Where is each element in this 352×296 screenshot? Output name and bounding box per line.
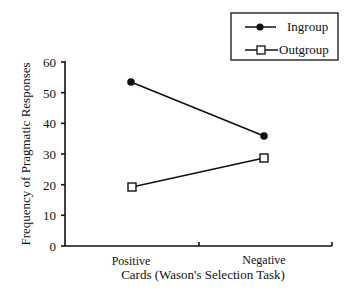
series-ingroup bbox=[127, 78, 268, 140]
y-tick-labels: 60 50 40 30 20 10 0 bbox=[43, 55, 56, 254]
svg-text:60: 60 bbox=[43, 55, 56, 70]
svg-text:Positive: Positive bbox=[112, 254, 151, 268]
legend-ingroup-label: Ingroup bbox=[287, 19, 328, 34]
legend: Ingroup Outgroup bbox=[231, 13, 338, 60]
svg-text:50: 50 bbox=[43, 86, 56, 101]
svg-text:0: 0 bbox=[50, 239, 57, 254]
line-chart: Ingroup Outgroup 60 50 40 30 20 10 0 Fre… bbox=[0, 0, 352, 296]
svg-text:Negative: Negative bbox=[242, 253, 285, 267]
svg-text:10: 10 bbox=[43, 208, 56, 223]
outgroup-negative-point bbox=[260, 154, 268, 162]
ingroup-positive-point bbox=[127, 78, 135, 86]
svg-text:20: 20 bbox=[43, 178, 56, 193]
axes bbox=[61, 61, 332, 246]
svg-text:30: 30 bbox=[43, 147, 56, 162]
svg-text:40: 40 bbox=[43, 116, 56, 131]
ingroup-negative-point bbox=[260, 132, 268, 140]
y-axis-label: Frequency of Pragmatic Responses bbox=[18, 62, 33, 245]
x-axis-label: Cards (Wason's Selection Task) bbox=[121, 267, 285, 282]
x-tick-labels: Positive Negative bbox=[112, 253, 286, 268]
series-outgroup bbox=[128, 154, 268, 191]
filled-circle-marker-icon bbox=[256, 23, 263, 30]
open-square-marker-icon bbox=[257, 46, 265, 54]
outgroup-positive-point bbox=[128, 183, 136, 191]
legend-outgroup-label: Outgroup bbox=[279, 42, 329, 57]
